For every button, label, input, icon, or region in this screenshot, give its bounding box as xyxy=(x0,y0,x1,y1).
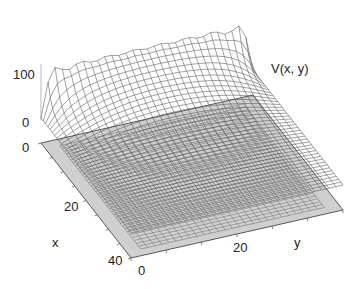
surface-plot: 100 0 V(x, y) 0 20 x 40 0 20 y xyxy=(0,0,357,289)
x-tick-20: 20 xyxy=(64,200,78,213)
x-tick-40: 40 xyxy=(108,254,122,267)
z-tick-0: 0 xyxy=(22,116,29,129)
y-tick-0: 0 xyxy=(138,264,145,277)
z-axis-label: V(x, y) xyxy=(271,62,309,75)
x-tick-0: 0 xyxy=(22,141,29,154)
z-tick-100: 100 xyxy=(13,68,35,81)
y-axis-label: y xyxy=(294,236,301,249)
x-axis-label: x xyxy=(52,236,59,249)
y-tick-20: 20 xyxy=(233,241,247,254)
